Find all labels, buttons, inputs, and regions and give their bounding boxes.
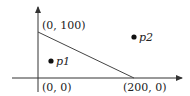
point-p1-label: p1 — [56, 55, 70, 68]
origin-label: (0, 0) — [42, 81, 72, 94]
x-intercept-label: (200, 0) — [123, 81, 167, 94]
y-intercept-label: (0, 100) — [42, 19, 86, 32]
point-p1-marker — [48, 58, 53, 63]
point-p2-marker — [131, 34, 136, 39]
diagram-canvas: (0, 100) (0, 0) (200, 0) p1 p2 — [0, 0, 190, 96]
constraint-line — [38, 32, 134, 78]
point-p2-label: p2 — [139, 31, 153, 44]
